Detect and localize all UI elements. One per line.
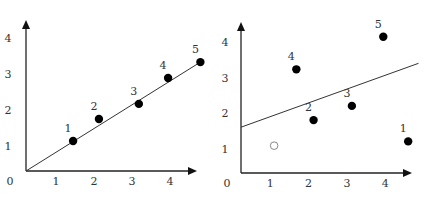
point-label: 3 — [343, 87, 350, 100]
y-tick-label: 4 — [5, 32, 12, 45]
x-tick-label: 4 — [167, 175, 174, 188]
data-point — [292, 65, 300, 73]
y-axis-arrow-icon — [22, 20, 30, 29]
data-point — [309, 116, 317, 124]
x-axis-arrow-icon — [403, 169, 412, 177]
y-axis-arrow-icon — [237, 22, 245, 31]
y-tick-label: 4 — [222, 36, 229, 49]
data-point — [95, 115, 103, 123]
data-point — [196, 58, 204, 66]
data-point — [404, 137, 412, 145]
point-label: 4 — [160, 59, 167, 72]
fit-line — [241, 63, 419, 127]
point-label: 1 — [65, 122, 72, 135]
x-tick-label: 0 — [7, 175, 14, 188]
left-scatter-plot: 01234123412345 — [5, 20, 205, 188]
point-label: 5 — [192, 43, 199, 56]
right-scatter-plot: 01234123412345 — [222, 18, 419, 190]
x-axis-arrow-icon — [188, 167, 197, 175]
data-point — [135, 100, 143, 108]
data-point — [379, 32, 387, 40]
data-point — [164, 74, 172, 82]
fit-line — [26, 62, 200, 171]
point-label: 1 — [400, 122, 407, 135]
x-tick-label: 0 — [224, 177, 231, 190]
y-tick-label: 2 — [222, 107, 229, 120]
y-tick-label: 3 — [5, 68, 12, 81]
y-tick-label: 1 — [222, 143, 229, 156]
x-tick-label: 3 — [343, 177, 350, 190]
open-data-point — [270, 142, 278, 150]
x-tick-label: 2 — [305, 177, 312, 190]
x-tick-label: 1 — [267, 177, 274, 190]
data-point — [69, 137, 77, 145]
x-tick-label: 3 — [129, 175, 136, 188]
x-tick-label: 1 — [53, 175, 60, 188]
figure: 01234123412345 01234123412345 — [0, 0, 431, 205]
point-label: 2 — [305, 101, 312, 114]
x-tick-label: 4 — [382, 177, 389, 190]
point-label: 2 — [90, 100, 97, 113]
data-point — [348, 102, 356, 110]
y-tick-label: 2 — [5, 104, 12, 117]
point-label: 5 — [375, 18, 382, 31]
y-tick-label: 1 — [5, 140, 12, 153]
point-label: 4 — [288, 50, 295, 63]
x-tick-label: 2 — [91, 175, 98, 188]
point-label: 3 — [130, 85, 137, 98]
y-tick-label: 3 — [222, 72, 229, 85]
